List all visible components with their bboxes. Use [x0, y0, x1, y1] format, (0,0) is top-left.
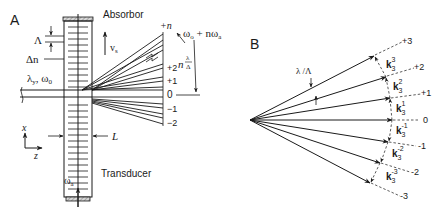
absorber-label: Absorbor — [103, 9, 144, 20]
b-order-minus-3: -3 — [400, 191, 408, 201]
angle-label-b: λ /Λ — [296, 66, 312, 76]
axis-x-label: x — [21, 122, 27, 133]
break-symbol — [146, 53, 158, 62]
k-label-1: k31 — [396, 100, 406, 116]
svg-text:n: n — [178, 58, 184, 70]
wave-vectors — [250, 56, 392, 183]
output-freq-label: ωo + nωa — [183, 27, 222, 41]
svg-text:λ: λ — [186, 54, 190, 62]
thickness-label: L — [111, 130, 118, 142]
order-label-plus-2: +2 — [167, 63, 177, 73]
b-order-plus-2: +2 — [414, 62, 424, 72]
grating-period-marker: Λ — [34, 26, 64, 52]
b-order-plus-1: +1 — [421, 88, 431, 98]
coordinate-axes: x z — [21, 122, 42, 161]
input-beam-label: λy, ω0 — [27, 72, 53, 86]
grating-period-label: Λ — [34, 34, 42, 46]
b-order-plus-3: +3 — [402, 36, 412, 46]
order-label-minus-1: −1 — [167, 104, 177, 114]
order-label-zero: 0 — [167, 89, 173, 100]
input-beam — [20, 87, 92, 103]
transducer-label: Transducer — [101, 168, 152, 179]
velocity-label: vs — [110, 42, 118, 55]
b-order-minus-1: -1 — [418, 141, 426, 151]
b-order-minus-2: -2 — [411, 167, 419, 177]
wave-vector-plus-2 — [250, 77, 386, 120]
diagram-canvas: A — [0, 0, 440, 207]
panel-a: A — [10, 9, 222, 207]
order-label-plus-n: +n — [160, 20, 172, 31]
b-order-zero: 0 — [423, 115, 428, 125]
k-label-minus-1: k3-1 — [396, 122, 408, 138]
wave-vector-minus-2 — [250, 120, 380, 163]
angle-label: n λ Δ — [178, 54, 192, 71]
k-label-2: k32 — [393, 78, 403, 94]
order-label-plus-1: +1 — [167, 76, 177, 86]
order-label-minus-2: −2 — [167, 118, 177, 128]
axis-z-label: z — [33, 150, 38, 161]
k-label-minus-3: k3-3 — [386, 168, 398, 184]
k-label-minus-2: k3-2 — [392, 145, 404, 161]
diffracted-beams — [82, 34, 163, 124]
panel-a-label: A — [10, 12, 20, 28]
panel-b: B — [250, 36, 431, 201]
svg-text:Δ: Δ — [186, 63, 191, 71]
k-label-3: k33 — [386, 56, 396, 72]
index-label: Δn — [26, 53, 39, 65]
panel-b-label: B — [250, 36, 259, 52]
angle-span-arrow — [194, 40, 196, 92]
